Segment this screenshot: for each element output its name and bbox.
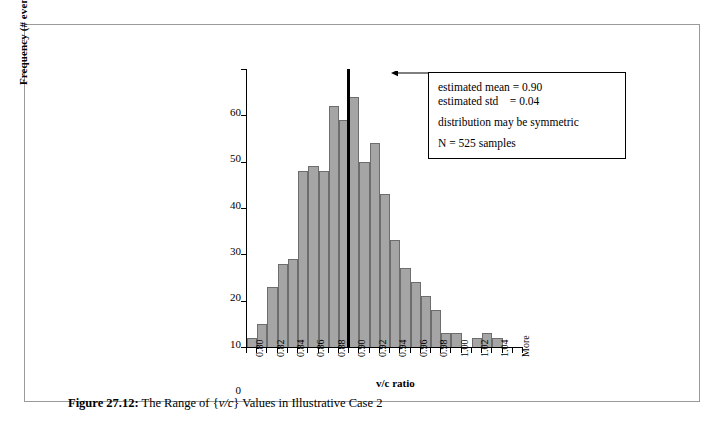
x-axis-tick-label: 0.94: [398, 340, 408, 358]
histogram-bar: [278, 264, 288, 347]
x-axis-tick: [369, 348, 370, 353]
y-axis-title: Frequency (# events): [17, 0, 29, 85]
y-axis-tick: [241, 208, 246, 209]
histogram-bar: [298, 171, 308, 347]
histogram-bar: [380, 194, 390, 347]
x-axis-tick: [471, 348, 472, 353]
histogram-bar: [267, 287, 277, 347]
x-axis-tick-label: 1.02: [480, 340, 490, 358]
y-axis-tick-labels: 0102030405060: [207, 69, 241, 359]
x-axis-tick: [246, 348, 247, 353]
y-axis-tick: [241, 162, 246, 163]
x-axis-tick: [328, 348, 329, 353]
estimated-mean-line: [347, 69, 350, 347]
x-axis-tick-label: 0.92: [378, 340, 388, 358]
x-axis-title: v/c ratio: [376, 377, 415, 389]
x-axis-tick-label: More: [521, 335, 531, 357]
histogram-bar: [288, 259, 298, 347]
x-axis-tick-label: 1.04: [500, 340, 510, 358]
x-axis-tick: [266, 348, 267, 353]
callout-spacer-2: [438, 129, 625, 136]
histogram-bar: [411, 282, 421, 347]
x-axis-tick-label: 0.82: [276, 340, 286, 358]
x-axis-tick: [450, 348, 451, 353]
x-axis-tick: [287, 348, 288, 353]
y-axis-tick-label: 50: [211, 153, 241, 164]
callout-estimated-mean: estimated mean = 0.90: [438, 80, 625, 94]
y-axis-tick-label: 60: [211, 107, 241, 118]
x-axis-tick-label: 0.98: [439, 340, 449, 358]
histogram-bar: [319, 171, 329, 347]
caption-suffix: } Values in Illustrative Case 2: [233, 396, 382, 410]
histogram-bar: [308, 166, 318, 347]
x-axis-tick: [389, 348, 390, 353]
y-axis-tick-label: 40: [211, 200, 241, 211]
x-axis-tick-label: 0.84: [296, 340, 306, 358]
x-axis-tick-label: 0.80: [255, 340, 265, 358]
callout-sample-count: N = 525 samples: [438, 136, 625, 150]
callout-estimated-std: estimated std = 0.04: [438, 94, 625, 108]
x-axis-tick: [410, 348, 411, 353]
y-axis-tick: [241, 115, 246, 116]
caption-italic-term: v/c: [219, 396, 234, 410]
figure-page: Frequency (# events) 0102030405060 0.800…: [0, 0, 726, 427]
histogram-bar: [349, 97, 359, 347]
y-axis-tick: [241, 69, 246, 70]
callout-symmetry-note: distribution may be symmetric: [438, 115, 625, 129]
statistics-callout: estimated mean = 0.90 estimated std = 0.…: [428, 72, 626, 159]
x-axis-tick-label: 0.88: [337, 340, 347, 358]
x-axis-tick: [512, 348, 513, 353]
x-axis-tick: [491, 348, 492, 353]
x-axis-tick: [307, 348, 308, 353]
x-axis-tick-label: 0.90: [357, 340, 367, 358]
figure-frame: Frequency (# events) 0102030405060 0.800…: [24, 24, 700, 402]
y-axis-tick-label: 0: [211, 385, 241, 396]
histogram-bar: [329, 106, 339, 347]
x-axis-tick-label: 0.86: [316, 340, 326, 358]
y-axis-tick-label: 20: [211, 292, 241, 303]
caption-prefix: The Range of {: [142, 396, 219, 410]
x-axis-tick-label: 1.00: [460, 340, 470, 358]
callout-spacer-1: [438, 108, 625, 115]
callout-arrow-icon: [390, 71, 430, 81]
histogram-bar: [390, 240, 400, 347]
y-axis-tick: [241, 254, 246, 255]
x-axis-tick: [430, 348, 431, 353]
histogram-bar: [370, 143, 380, 347]
y-axis-tick-label: 30: [211, 246, 241, 257]
x-axis-tick: [348, 348, 349, 353]
y-axis-tick: [241, 301, 246, 302]
caption-label: Figure 27.12:: [68, 396, 139, 410]
figure-caption: Figure 27.12: The Range of {v/c} Values …: [68, 396, 382, 411]
y-axis-tick-label: 10: [211, 339, 241, 350]
histogram-bar: [359, 162, 369, 347]
histogram-bar: [400, 268, 410, 347]
x-axis-tick-label: 0.96: [419, 340, 429, 358]
